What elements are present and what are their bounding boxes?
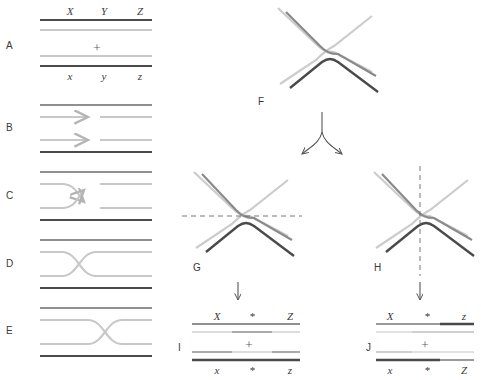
panel-c-strand-invasion <box>40 172 152 220</box>
panel-i-patch-products <box>192 324 300 360</box>
panel-b-duplexes <box>40 105 152 152</box>
diagram-canvas <box>0 0 481 380</box>
panel-a-duplexes <box>40 20 152 66</box>
recombination-figure: A B C D E X Y Z + x y z F G H I J X * Z … <box>0 0 481 380</box>
panel-d-holliday-junction <box>40 240 152 288</box>
panel-h-vertical-cut-junction <box>374 166 474 276</box>
bifurcation-arrow <box>302 112 342 154</box>
panel-f-open-junction <box>278 8 378 92</box>
panel-e-branch-migration <box>40 308 152 356</box>
panel-g-horizontal-cut-junction <box>182 172 302 256</box>
panel-j-splice-products <box>376 324 474 360</box>
